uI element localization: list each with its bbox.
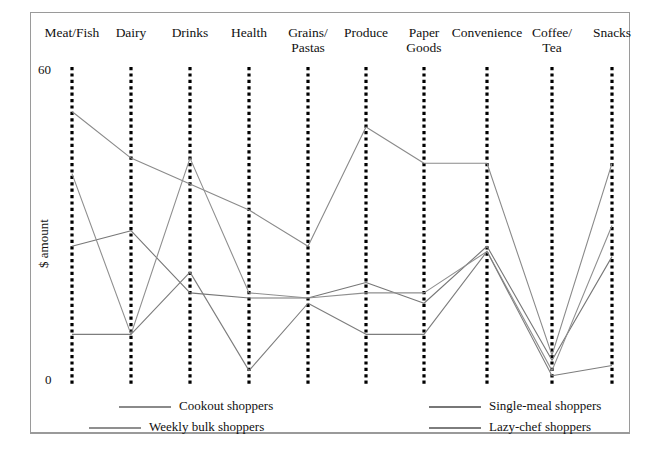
legend-swatch-3 [429,427,481,429]
series-line-2 [72,158,612,371]
category-label-line1: Snacks [560,25,659,40]
category-label-line2: Goods [372,40,476,55]
legend-swatch-1 [429,406,481,408]
y-axis-tick-60: 60 [38,62,51,78]
legend-swatch-0 [119,406,171,408]
legend-label-2: Weekly bulk shoppers [149,419,264,435]
y-axis-title: $ amount [36,219,52,268]
chart-legend: Cookout shoppersSingle-meal shoppersWeek… [31,392,629,432]
category-label-line2: Pastas [256,40,360,55]
y-axis-tick-0: 0 [45,372,52,388]
legend-label-1: Single-meal shoppers [489,398,601,414]
series-line-0 [72,111,612,355]
category-label-line2: Tea [500,40,604,55]
series-lines-group [72,111,612,375]
legend-label-0: Cookout shoppers [179,398,273,414]
legend-label-3: Lazy-chef shoppers [489,419,591,435]
legend-swatch-2 [89,427,141,429]
axis-category-label-9: Snacks [560,25,659,40]
